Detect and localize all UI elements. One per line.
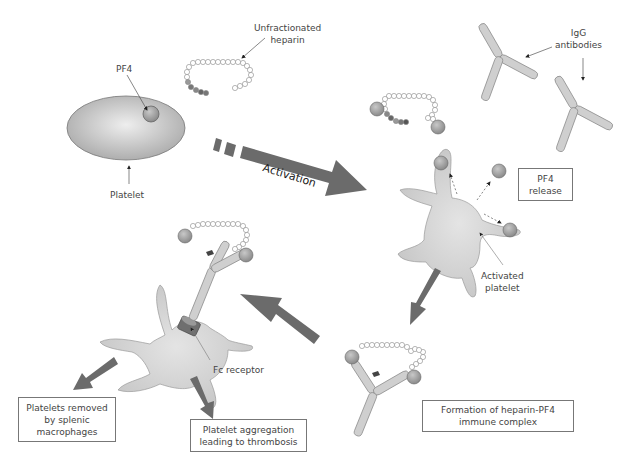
label-pf4: PF4: [116, 63, 132, 75]
label-unfractionated-heparin-line1: Unfractionated: [254, 22, 321, 34]
box-splenic-removal: Platelets removed by splenic macrophages: [18, 397, 116, 442]
released-pf4-1: [434, 156, 448, 170]
heparin-chain-top: [184, 59, 253, 95]
box-pf4-release-line1: PF4: [529, 173, 562, 185]
label-unfractionated-heparin-line2: heparin: [254, 34, 321, 46]
box-splenic-line1: Platelets removed: [26, 402, 108, 414]
label-unfractionated-heparin: Unfractionated heparin: [254, 22, 321, 46]
label-platelet: Platelet: [110, 189, 144, 201]
box-immune-complex: Formation of heparin-PF4 immune complex: [422, 400, 574, 432]
immune-complex-bottom: [345, 342, 426, 437]
label-activated-platelet: Activated platelet: [481, 270, 524, 294]
label-igg-antibodies: IgG antibodies: [555, 27, 602, 51]
return-arrow: [240, 294, 320, 344]
box-splenic-line2: by splenic: [26, 414, 108, 426]
arrow-to-immune-complex: [410, 268, 441, 325]
fc-bound-platelet: [100, 221, 253, 408]
activation-arrow: [213, 138, 367, 196]
released-pf4-2: [492, 164, 506, 178]
box-pf4-release-line2: release: [529, 185, 562, 197]
igg-antibody-2: [554, 75, 614, 153]
box-splenic-line3: macrophages: [26, 426, 108, 438]
box-immune-complex-line1: Formation of heparin-PF4: [441, 404, 555, 416]
label-activated-platelet-line2: platelet: [481, 282, 524, 294]
box-aggregation-line2: leading to thrombosis: [199, 436, 297, 448]
igg-antibody-1: [478, 22, 539, 102]
label-fc-receptor: Fc receptor: [213, 364, 264, 376]
box-immune-complex-line2: immune complex: [441, 416, 555, 428]
box-aggregation-line1: Platelet aggregation: [199, 424, 297, 436]
label-igg-line1: IgG: [555, 27, 602, 39]
resting-platelet: [67, 75, 185, 184]
pf4-granule: [143, 106, 159, 122]
box-pf4-release: PF4 release: [518, 168, 573, 201]
heparin-pf4-complex-top: [370, 93, 445, 134]
label-activated-platelet-line1: Activated: [481, 270, 524, 282]
box-aggregation: Platelet aggregation leading to thrombos…: [190, 419, 307, 452]
label-igg-line2: antibodies: [555, 39, 602, 51]
arrow-to-splenic: [73, 357, 118, 390]
released-pf4-3: [503, 223, 517, 237]
